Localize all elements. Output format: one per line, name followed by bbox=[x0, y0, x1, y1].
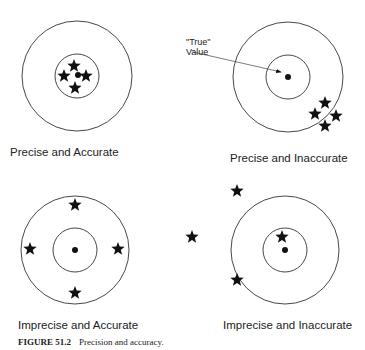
star-icon bbox=[68, 81, 81, 94]
star-icon bbox=[318, 119, 331, 132]
true-value-dot bbox=[75, 72, 81, 78]
figure-number: FIGURE 51.2 bbox=[18, 337, 71, 347]
figure-caption: FIGURE 51.2Precision and accuracy. bbox=[18, 337, 164, 347]
true-value-dot bbox=[285, 74, 291, 80]
true-value-annotation: "True" Value bbox=[186, 37, 211, 57]
precision-accuracy-diagram bbox=[0, 0, 365, 350]
label-precise-accurate: Precise and Accurate bbox=[10, 146, 119, 158]
star-icon bbox=[230, 273, 243, 286]
target-precise-inaccurate bbox=[233, 22, 343, 132]
true-value-dot bbox=[282, 247, 288, 253]
star-icon bbox=[275, 230, 288, 243]
star-icon bbox=[57, 69, 70, 82]
star-icon bbox=[230, 184, 243, 197]
star-icon bbox=[185, 230, 198, 243]
target-precise-accurate bbox=[22, 21, 132, 131]
label-imprecise-inaccurate: Imprecise and Inaccurate bbox=[223, 319, 352, 331]
target-imprecise-inaccurate bbox=[185, 184, 339, 304]
star-icon bbox=[111, 242, 124, 255]
target-imprecise-accurate bbox=[21, 196, 129, 304]
star-icon bbox=[68, 286, 81, 299]
value-label: Value bbox=[186, 47, 211, 57]
label-precise-inaccurate: Precise and Inaccurate bbox=[230, 152, 348, 164]
star-icon bbox=[318, 96, 331, 109]
star-icon bbox=[23, 242, 36, 255]
label-imprecise-accurate: Imprecise and Accurate bbox=[18, 319, 138, 331]
figure-title: Precision and accuracy. bbox=[79, 337, 164, 347]
star-icon bbox=[67, 59, 80, 72]
star-icon bbox=[79, 69, 92, 82]
true-value-dot bbox=[72, 247, 78, 253]
star-icon bbox=[308, 107, 321, 120]
star-icon bbox=[68, 198, 81, 211]
true-label: "True" bbox=[186, 37, 211, 47]
